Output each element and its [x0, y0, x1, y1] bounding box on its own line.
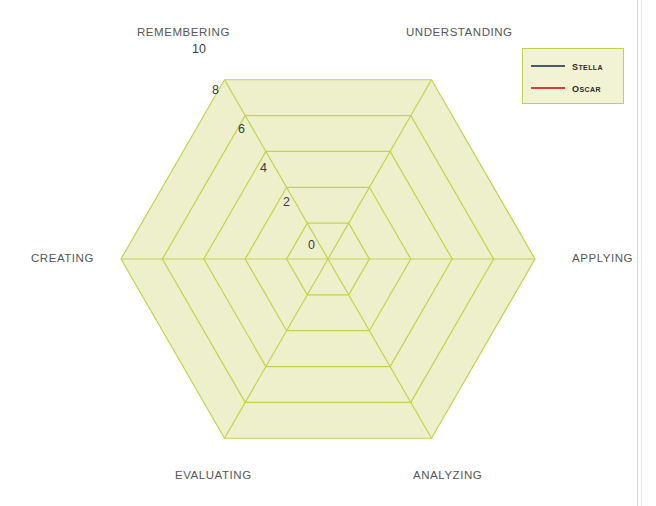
legend-label-stella: Stella — [572, 59, 603, 73]
tick-label-0: 0 — [308, 238, 315, 252]
legend-label-oscar: Oscar — [572, 81, 601, 95]
legend-item-oscar[interactable]: Oscar — [523, 79, 623, 97]
panel-divider-secondary — [641, 0, 642, 506]
chart-page: REMEMBERING UNDERSTANDING APPLYING ANALY… — [0, 0, 656, 506]
tick-label-4: 4 — [260, 161, 267, 175]
axis-label-analyzing: ANALYZING — [413, 469, 482, 481]
tick-label-6: 6 — [238, 122, 245, 136]
axis-label-applying: APPLYING — [572, 252, 633, 264]
axis-label-remembering: REMEMBERING — [137, 26, 230, 38]
tick-label-8: 8 — [212, 83, 219, 97]
legend-item-stella[interactable]: Stella — [523, 57, 623, 75]
axis-label-evaluating: EVALUATING — [175, 469, 252, 481]
tick-label-2: 2 — [283, 195, 290, 209]
legend-swatch-oscar — [531, 87, 565, 89]
legend-swatch-stella — [531, 65, 565, 67]
axis-label-creating: CREATING — [31, 252, 94, 264]
axis-label-understanding: UNDERSTANDING — [406, 26, 513, 38]
panel-divider — [637, 0, 638, 506]
tick-label-10: 10 — [192, 42, 206, 56]
chart-legend: Stella Oscar — [522, 48, 624, 104]
